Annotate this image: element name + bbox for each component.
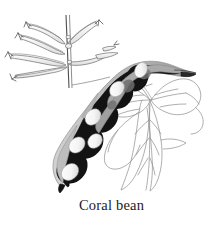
figure-panel: Coral bean [0, 0, 223, 236]
figure-caption: Coral bean [0, 196, 223, 214]
